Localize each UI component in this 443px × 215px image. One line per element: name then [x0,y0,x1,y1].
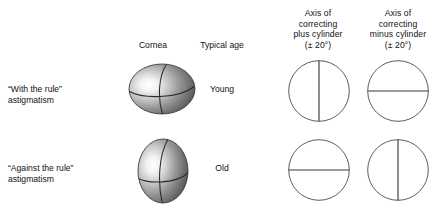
minus-cylinder-dial-with-the-rule [366,59,430,123]
column-header-typical-age: Typical age [188,40,256,51]
row-1-label-line-2: astigmatism [8,95,62,106]
row-1-label-line-1: “With the rule” [8,84,62,95]
age-cell-old: Old [188,163,256,174]
row-label-with-the-rule: “With the rule” astigmatism [8,84,62,106]
plus-cylinder-header-line-3: plus cylinder [280,29,356,40]
column-header-minus-cylinder: Axis of correcting minus cylinder (± 20°… [357,8,439,50]
row-2-label-line-2: astigmatism [8,174,73,185]
plus-cylinder-header-line-2: correcting [280,19,356,30]
plus-cylinder-dial-against-the-rule [287,138,351,202]
column-header-cornea: Cornea [124,40,182,51]
minus-cylinder-header-line-1: Axis of [357,8,439,19]
cornea-against-the-rule [132,135,194,207]
minus-cylinder-dial-against-the-rule [366,138,430,202]
row-2-label-line-1: “Against the rule” [8,163,73,174]
astigmatism-diagram: Cornea Typical age Axis of correcting pl… [0,0,443,215]
minus-cylinder-header-line-4: (± 20°) [357,40,439,51]
row-label-against-the-rule: “Against the rule” astigmatism [8,163,73,185]
age-cell-young: Young [188,84,256,95]
minus-cylinder-header-line-2: correcting [357,19,439,30]
column-header-plus-cylinder: Axis of correcting plus cylinder (± 20°) [280,8,356,50]
plus-cylinder-header-line-4: (± 20°) [280,40,356,51]
plus-cylinder-header-line-1: Axis of [280,8,356,19]
plus-cylinder-dial-with-the-rule [287,59,351,123]
minus-cylinder-header-line-3: minus cylinder [357,29,439,40]
